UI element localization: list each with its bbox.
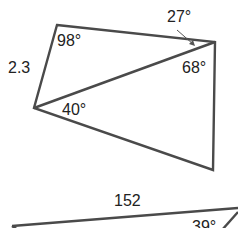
- side-label-152: 152: [114, 192, 141, 209]
- angle-label-right-upper: 27°: [167, 8, 191, 25]
- angle-label-lower: 39°: [192, 218, 216, 228]
- geometry-diagram: 2.3 98° 27° 68° 40° 152 39°: [0, 0, 238, 228]
- side-label-2-3: 2.3: [8, 59, 30, 76]
- lower-figure-right-edge: [222, 212, 238, 228]
- angle-label-top-left: 98°: [57, 32, 81, 49]
- angle-label-right-lower: 68°: [182, 59, 206, 76]
- angle-label-left-lower: 40°: [62, 101, 86, 118]
